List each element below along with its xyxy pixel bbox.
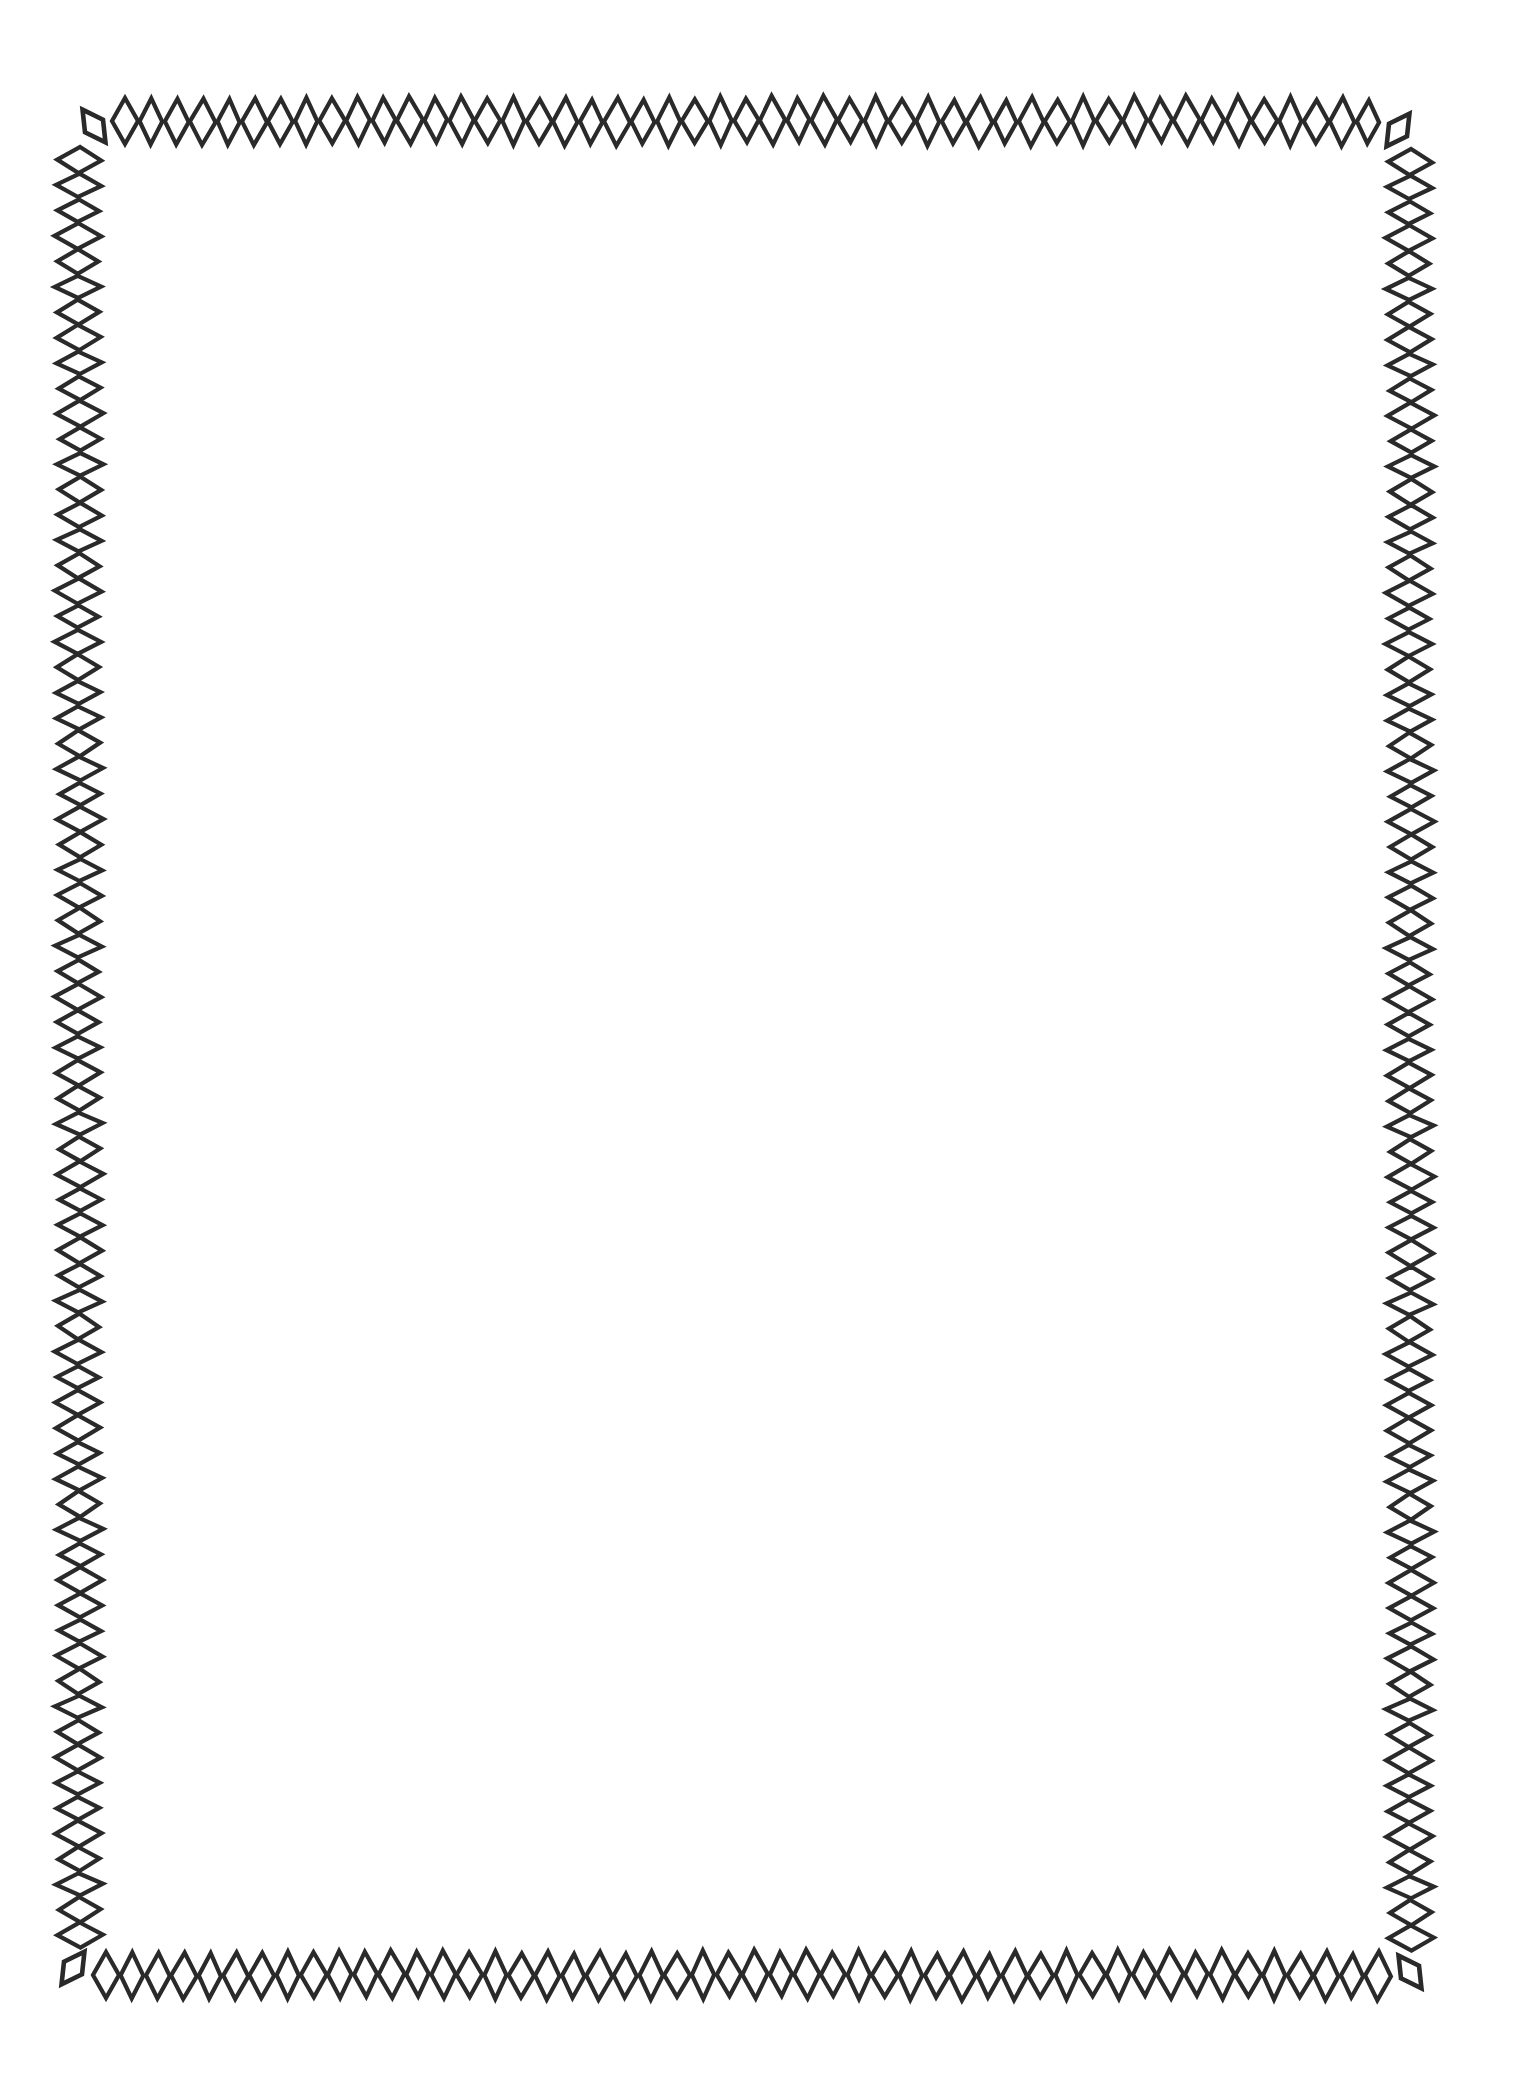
diamond-icon bbox=[925, 1954, 949, 1997]
diamond-icon bbox=[59, 1137, 100, 1162]
diamond-icon bbox=[406, 1952, 428, 1997]
diamond-icon bbox=[1386, 937, 1433, 960]
diamond-icon bbox=[56, 1060, 101, 1086]
diamond-icon bbox=[199, 1953, 221, 1999]
diamond-icon bbox=[1389, 1570, 1434, 1596]
diamond-icon bbox=[57, 453, 104, 476]
diamond-icon bbox=[57, 807, 104, 832]
diamond-icon bbox=[942, 100, 966, 143]
diamond-icon bbox=[58, 859, 103, 881]
diamond-icon bbox=[1389, 1240, 1433, 1266]
diamond-icon bbox=[56, 757, 103, 781]
diamond-icon bbox=[58, 1086, 100, 1111]
diamond-icon bbox=[1386, 986, 1433, 1012]
diamond-icon bbox=[112, 98, 138, 144]
diamond-icon bbox=[1387, 1293, 1434, 1315]
diamond-icon bbox=[121, 1952, 144, 1998]
diamond-icon bbox=[1388, 1164, 1435, 1190]
diamond-icon bbox=[55, 578, 102, 603]
diamond-icon bbox=[223, 1953, 248, 2000]
diamond-icon bbox=[1235, 1953, 1261, 1996]
diamond-icon bbox=[1386, 1342, 1433, 1367]
diamond-icon bbox=[1387, 1521, 1434, 1544]
blank-content-area bbox=[120, 165, 1370, 1935]
diamond-icon bbox=[1389, 962, 1430, 985]
diamond-icon bbox=[1390, 835, 1432, 860]
diamond-icon bbox=[1096, 99, 1122, 142]
diamond-icon bbox=[1357, 100, 1379, 143]
diamond-icon bbox=[865, 96, 888, 145]
diamond-icon bbox=[57, 1366, 99, 1388]
diamond-icon bbox=[59, 1897, 101, 1922]
diamond-icon bbox=[431, 1951, 455, 1999]
diamond-icon bbox=[57, 1720, 99, 1744]
diamond-icon bbox=[787, 98, 809, 141]
diamond-icon bbox=[346, 97, 370, 144]
diamond-icon bbox=[56, 1772, 100, 1795]
diamond-icon bbox=[59, 1188, 101, 1210]
diamond-icon bbox=[56, 1873, 103, 1895]
diamond-icon bbox=[1341, 1954, 1363, 1997]
diamond-icon bbox=[58, 1669, 99, 1694]
diamond-icon bbox=[1056, 1951, 1078, 2000]
diamond-icon bbox=[1388, 1723, 1430, 1747]
diamond-icon bbox=[56, 1290, 102, 1312]
diamond-icon bbox=[57, 605, 98, 627]
left-border-column bbox=[55, 147, 104, 1948]
diamond-icon bbox=[821, 1953, 845, 1996]
diamond-icon bbox=[57, 147, 101, 173]
diamond-icon bbox=[1263, 1951, 1285, 2000]
diamond-icon bbox=[1389, 1316, 1430, 1342]
diamond-icon bbox=[682, 99, 708, 143]
diamond-icon bbox=[1390, 1139, 1431, 1164]
diamond-icon bbox=[562, 1954, 584, 1998]
diamond-icon bbox=[794, 1950, 819, 1999]
diamond-icon bbox=[1386, 581, 1433, 606]
diamond-icon bbox=[1389, 555, 1431, 580]
diamond-icon bbox=[1390, 379, 1432, 403]
diamond-icon bbox=[848, 1950, 871, 1999]
diamond-icon bbox=[1080, 1953, 1106, 1996]
diamond-icon bbox=[57, 352, 102, 374]
diamond-icon bbox=[425, 98, 448, 142]
diamond-icon bbox=[734, 99, 758, 142]
diamond-icon bbox=[1314, 1951, 1339, 2000]
diamond-icon bbox=[57, 249, 98, 274]
diamond-icon bbox=[1387, 1774, 1431, 1797]
diamond-icon bbox=[57, 529, 102, 551]
diamond-icon bbox=[319, 98, 345, 143]
diamond-icon bbox=[1387, 1039, 1432, 1061]
diamond-icon bbox=[717, 1953, 741, 1996]
diamond-icon bbox=[1388, 608, 1429, 630]
diamond-icon bbox=[55, 1340, 102, 1364]
diamond-icon bbox=[56, 174, 101, 197]
diamond-icon bbox=[1388, 1445, 1431, 1467]
diamond-icon bbox=[838, 99, 862, 142]
diamond-icon bbox=[1387, 1646, 1433, 1671]
diamond-icon bbox=[640, 1951, 663, 1999]
diamond-icon bbox=[1210, 1950, 1234, 1999]
diamond-icon bbox=[55, 1821, 101, 1847]
diamond-icon bbox=[580, 100, 602, 144]
diamond-icon bbox=[1389, 733, 1431, 759]
diamond-icon bbox=[1389, 1088, 1431, 1113]
diamond-icon bbox=[1386, 1824, 1432, 1850]
diamond-icon bbox=[1388, 1369, 1430, 1391]
diamond-icon bbox=[1279, 97, 1301, 146]
diamond-icon bbox=[1386, 225, 1433, 251]
diamond-icon bbox=[1389, 505, 1433, 529]
diamond-icon bbox=[1387, 1063, 1432, 1089]
diamond-icon bbox=[55, 223, 102, 249]
diamond-icon bbox=[1388, 403, 1435, 429]
diamond-icon bbox=[1390, 1900, 1432, 1925]
diamond-icon bbox=[1387, 759, 1434, 783]
diamond-icon bbox=[1388, 532, 1433, 554]
diamond-icon bbox=[1389, 910, 1431, 936]
diamond-icon bbox=[586, 1952, 612, 2000]
diamond-icon bbox=[1387, 683, 1431, 706]
diamond-icon bbox=[397, 96, 423, 143]
diamond-icon bbox=[1123, 96, 1147, 145]
diamond-icon bbox=[57, 1923, 102, 1948]
diamond-icon bbox=[1386, 1699, 1433, 1721]
diamond-icon bbox=[770, 1952, 792, 1995]
